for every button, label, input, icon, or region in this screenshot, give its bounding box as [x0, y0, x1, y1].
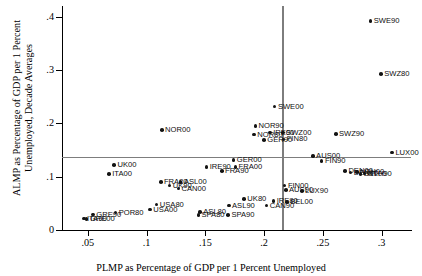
- data-point-label: FIN80: [287, 135, 308, 143]
- data-point-marker: [254, 124, 258, 128]
- x-tick-label: .1: [127, 238, 167, 248]
- data-point-marker: [107, 172, 111, 176]
- x-tick-label: .2: [244, 238, 284, 248]
- y-tick-label: 0: [14, 225, 54, 235]
- x-tick-mark: [382, 230, 383, 236]
- x-tick-mark: [88, 230, 89, 236]
- data-point-label: UK00: [117, 161, 136, 169]
- x-tick-mark: [264, 230, 265, 236]
- data-point-marker: [343, 169, 347, 173]
- data-point-marker: [148, 208, 152, 212]
- data-point-label: CAN00: [182, 185, 206, 193]
- data-point-label: ASL90: [232, 202, 255, 210]
- y-tick-label: .4: [14, 12, 54, 22]
- data-point-label: POR80: [119, 209, 144, 217]
- data-point-label: CAN90: [270, 202, 294, 210]
- x-tick-label: .3: [362, 238, 402, 248]
- data-point-marker: [284, 188, 288, 192]
- data-point-label: SWZ90: [339, 130, 364, 138]
- data-point-label: ITA00: [112, 170, 132, 178]
- data-point-label: FIN90: [325, 157, 346, 165]
- plot-area: [62, 6, 410, 230]
- data-point-label: SPA90: [231, 211, 254, 219]
- data-point-label: ITA90: [87, 215, 107, 223]
- data-point-marker: [159, 180, 163, 184]
- data-point-marker: [226, 213, 230, 217]
- y-axis-title: ALMP as Percentage of GDP per 1 Percent …: [11, 0, 41, 223]
- data-point-label: NOR00: [165, 126, 190, 134]
- data-point-label: SWE90: [374, 17, 400, 25]
- data-point-marker: [197, 213, 201, 217]
- x-tick-mark: [323, 230, 324, 236]
- data-point-marker: [379, 72, 383, 76]
- x-axis-title: PLMP as Percentage of GDP per 1 Percent …: [0, 262, 422, 273]
- x-tick-label: .15: [185, 238, 225, 248]
- data-point-marker: [262, 138, 266, 142]
- x-tick-mark: [205, 230, 206, 236]
- scatter-plot-figure: ALMP as Percentage of GDP per 1 Percent …: [0, 0, 422, 276]
- data-point-marker: [220, 169, 224, 173]
- y-tick-label: .1: [14, 172, 54, 182]
- y-tick-label: .3: [14, 65, 54, 75]
- data-point-label: BEL00: [364, 170, 387, 178]
- data-point-marker: [227, 204, 231, 208]
- data-point-marker: [300, 189, 304, 193]
- data-point-marker: [334, 132, 338, 136]
- data-point-label: FRA90: [225, 167, 249, 175]
- y-tick-mark: [56, 230, 62, 231]
- data-point-marker: [160, 128, 164, 132]
- data-point-marker: [369, 19, 373, 23]
- x-tick-mark: [147, 230, 148, 236]
- data-point-marker: [311, 154, 315, 158]
- x-tick-label: .25: [303, 238, 343, 248]
- x-tick-label: .05: [68, 238, 108, 248]
- data-point-label: SWZ80: [384, 70, 409, 78]
- x-axis-line: [62, 230, 412, 231]
- data-point-label: LUX00: [395, 149, 418, 157]
- data-point-label: LUX90: [305, 187, 328, 195]
- data-point-marker: [82, 217, 86, 221]
- y-tick-label: .2: [14, 118, 54, 128]
- data-point-label: SPA80: [202, 211, 225, 219]
- data-point-label: USA00: [153, 206, 177, 214]
- data-point-label: SWE00: [278, 103, 304, 111]
